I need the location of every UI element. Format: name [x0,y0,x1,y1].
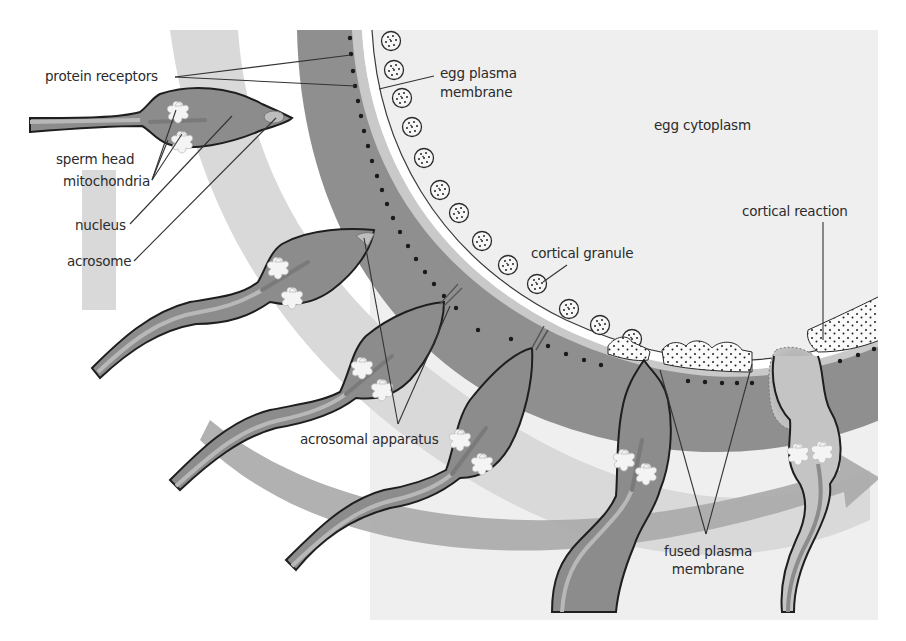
label-cortical-reaction: cortical reaction [742,203,848,220]
label-acrosomal-apparatus: acrosomal apparatus [300,431,439,448]
label-mitochondria: mitochondria [63,173,150,190]
acrosome [264,111,284,123]
label-protein-receptors: protein receptors [45,68,158,85]
label-acrosome: acrosome [67,253,131,270]
pale-bar [82,170,116,310]
label-egg-cytoplasm: egg cytoplasm [654,117,751,134]
label-egg-plasma-membrane-line1: egg plasma [440,65,517,82]
label-fused-plasma-membrane-line2: membrane [662,561,754,578]
fertilization-diagram: protein receptors egg plasma membrane eg… [0,0,906,641]
label-fused-plasma-membrane-line1: fused plasma [662,543,754,560]
label-cortical-granule: cortical granule [531,245,633,262]
label-nucleus: nucleus [75,217,126,234]
label-egg-plasma-membrane-line2: membrane [440,84,512,101]
label-sperm-head: sperm head [56,151,134,168]
